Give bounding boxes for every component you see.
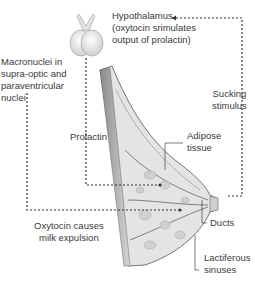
breast-cross-section-icon [100, 66, 218, 266]
label-oxytocin: Oxytocin causes milk expulsion [34, 220, 104, 244]
label-macronuclei: Macronuclei in supra-optic and paraventr… [1, 56, 66, 104]
label-adipose-tissue: Adipose tissue [187, 130, 221, 154]
label-hypothalamus: Hypothalamus (oxytocin srimulates output… [112, 10, 196, 46]
label-lactiferous-sinuses: Lactiferous sinuses [204, 252, 250, 276]
label-sucking-stimulus: Sucking stimulus [212, 88, 247, 112]
pituitary-gland-icon [70, 14, 103, 56]
label-prolactin: Prolactin [70, 131, 107, 143]
label-ducts: Ducts [210, 217, 234, 229]
